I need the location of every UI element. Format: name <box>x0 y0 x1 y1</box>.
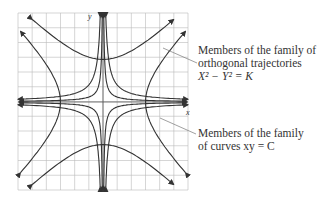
annotation-line: of curves xy = C <box>198 140 304 153</box>
annotation-family-curves: Members of the family of curves xy = C <box>198 127 304 153</box>
annotation-line: Members of the family of <box>198 44 316 57</box>
annotation-orthogonal-trajectories: Members of the family of orthogonal traj… <box>198 44 316 83</box>
leader-line-curves <box>160 118 196 134</box>
annotation-equation: X² − Y² = K <box>198 70 316 83</box>
leader-line-orthogonal <box>163 48 197 63</box>
annotation-line: Members of the family <box>198 127 304 140</box>
y-axis-label: y <box>87 12 92 21</box>
annotation-line: orthogonal trajectories <box>198 57 316 70</box>
figure: y x <box>0 0 327 200</box>
x-axis-label: x <box>185 108 190 117</box>
